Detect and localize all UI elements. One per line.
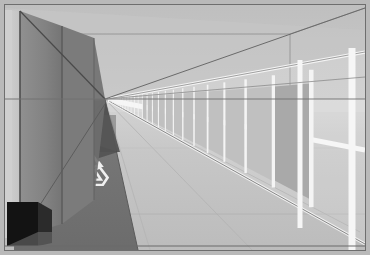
railing-gap-panel — [208, 90, 223, 157]
perspective-render — [0, 0, 370, 255]
railing-gap-panel — [195, 92, 207, 149]
railing-gap-panel — [143, 96, 147, 120]
railing-gap-panel — [225, 89, 244, 168]
left-wall-panel-2 — [62, 26, 94, 224]
railing-gap-panel — [247, 87, 272, 181]
railing-gap-panel — [153, 95, 158, 125]
scene-frame — [0, 0, 370, 255]
railing-gap-panel — [275, 84, 310, 200]
railing-gap-panel — [183, 93, 193, 143]
railing-gap-panel — [174, 93, 182, 137]
railing-gap-panel — [159, 95, 165, 129]
railing-gap-panel — [148, 96, 152, 123]
railing-gap-panel — [166, 94, 173, 132]
